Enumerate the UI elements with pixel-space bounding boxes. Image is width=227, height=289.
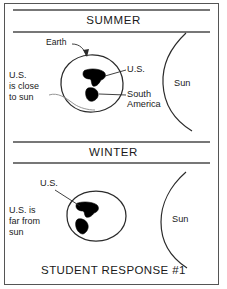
winter-us-label: U.S. — [40, 178, 58, 188]
summer-us-landmass — [83, 69, 105, 86]
winter-south-america-landmass — [76, 219, 89, 234]
diagram-linework — [0, 0, 227, 289]
winter-section-title: WINTER — [0, 146, 227, 159]
summer-side-note-line3: to sun — [9, 92, 34, 103]
summer-us-label: U.S. — [127, 64, 145, 74]
summer-side-note-line2: is close — [9, 81, 39, 92]
summer-sun-label: Sun — [174, 78, 190, 88]
summer-earth-label: Earth — [46, 38, 67, 48]
summer-south-america-landmass — [86, 88, 99, 102]
winter-side-note-line3: sun — [9, 227, 24, 238]
figure-caption: STUDENT RESPONSE #1 — [0, 264, 227, 277]
winter-us-landmass — [76, 202, 98, 217]
summer-south-america-label-line2: America — [127, 99, 161, 109]
summer-us-leader — [105, 70, 126, 76]
student-response-figure: SUMMER Earth U.S. South America Sun U.S.… — [0, 0, 227, 289]
winter-side-note-line2: far from — [9, 216, 40, 227]
winter-side-note-line1: U.S. is — [9, 205, 36, 216]
summer-side-note-line1: U.S. — [9, 70, 27, 81]
winter-earth-circle — [67, 191, 126, 241]
winter-sun-label: Sun — [172, 214, 188, 224]
summer-section-title: SUMMER — [0, 14, 227, 27]
summer-south-america-label-line1: South — [127, 89, 151, 99]
summer-earth-leader — [72, 44, 86, 55]
winter-us-leader — [55, 190, 80, 206]
